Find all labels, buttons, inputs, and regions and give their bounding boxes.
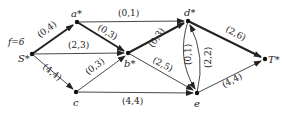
edge-label-a-b: (0,3)	[96, 22, 119, 42]
node-t	[263, 57, 267, 61]
edge-label-c-e: (4,4)	[122, 96, 143, 106]
node-label-b: b*	[124, 58, 135, 69]
node-b	[126, 51, 130, 55]
edge-s-b	[32, 53, 124, 54]
node-c	[74, 90, 78, 94]
node-label-t: T*	[268, 54, 280, 65]
edge-label-b-d: (0,3)	[146, 26, 166, 49]
flow-value-label: f=6	[7, 37, 25, 47]
node-e	[195, 91, 199, 95]
node-d	[186, 19, 190, 23]
node-label-s: S*	[18, 53, 30, 64]
edge-label-d-e: (0,1)	[183, 44, 193, 65]
edge-label-s-a: (0,4)	[35, 19, 58, 40]
edge-c-e	[76, 92, 193, 93]
edge-label-e-d: (2,2)	[203, 47, 213, 68]
edge-label-s-c: (4,4)	[41, 62, 64, 83]
edge-label-b-e: (2,5)	[151, 55, 175, 74]
network-flow-diagram: S* a* b* c d* e T* f=6 (0,4) (2,3) (4,4)…	[0, 0, 282, 120]
node-label-a: a*	[71, 8, 82, 19]
edge-label-e-t: (4,4)	[220, 71, 244, 90]
edge-label-a-d: (0,1)	[118, 8, 139, 18]
node-a	[75, 20, 79, 24]
edge-label-s-b: (2,3)	[68, 40, 89, 50]
node-label-e: e	[194, 98, 200, 109]
edge-label-c-b: (0,3)	[83, 56, 106, 77]
node-s	[30, 52, 34, 56]
edge-a-d	[77, 21, 184, 22]
node-label-d: d*	[184, 7, 195, 18]
node-label-c: c	[73, 97, 79, 108]
